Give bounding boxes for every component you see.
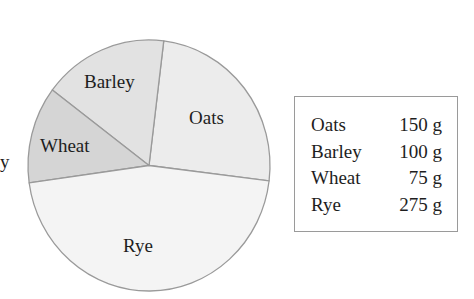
- legend-value: 75 g: [409, 166, 442, 190]
- legend-row-barley: Barley 100 g: [311, 140, 442, 164]
- legend-name: Rye: [311, 193, 341, 217]
- legend-name: Barley: [311, 140, 362, 164]
- slice-label-oats: Oats: [189, 107, 224, 128]
- legend-value: 275 g: [399, 193, 442, 217]
- legend-value: 100 g: [399, 140, 442, 164]
- legend-value: 150 g: [399, 113, 442, 137]
- slice-label-barley: Barley: [84, 71, 135, 92]
- slice-label-rye: Rye: [123, 235, 153, 256]
- legend-row-oats: Oats 150 g: [311, 113, 442, 137]
- legend-row-wheat: Wheat 75 g: [311, 166, 442, 190]
- legend-box: Oats 150 g Barley 100 g Wheat 75 g Rye 2…: [294, 96, 458, 232]
- slice-label-wheat: Wheat: [40, 135, 90, 156]
- pie-slice-rye: [29, 166, 269, 291]
- legend-row-rye: Rye 275 g: [311, 193, 442, 217]
- legend-name: Oats: [311, 113, 346, 137]
- legend-name: Wheat: [311, 166, 361, 190]
